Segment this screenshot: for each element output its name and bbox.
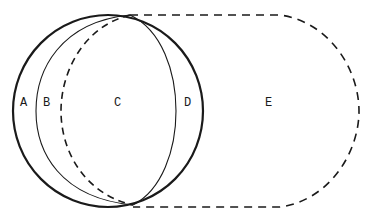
label-b: B	[43, 96, 50, 110]
label-d: D	[184, 96, 191, 110]
dashed-outer-outline	[130, 15, 359, 207]
label-c: C	[114, 96, 121, 110]
outer-solid-circle	[13, 15, 203, 207]
label-a: A	[20, 96, 28, 110]
region-diagram: A B C D E	[0, 0, 365, 218]
dashed-left-arc	[61, 15, 133, 205]
thin-right-arc	[130, 15, 176, 205]
label-e: E	[265, 96, 272, 110]
